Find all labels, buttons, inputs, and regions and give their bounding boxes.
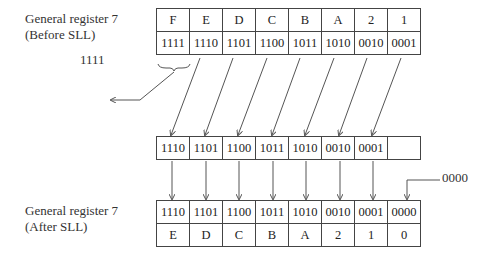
connector-arrows — [0, 0, 494, 257]
vertical-arrows — [172, 161, 373, 199]
shift-out-arrow — [111, 72, 174, 100]
shift-in-arrow — [407, 180, 440, 199]
diagonal-shift-arrows — [171, 58, 401, 135]
brace-icon — [158, 64, 190, 71]
